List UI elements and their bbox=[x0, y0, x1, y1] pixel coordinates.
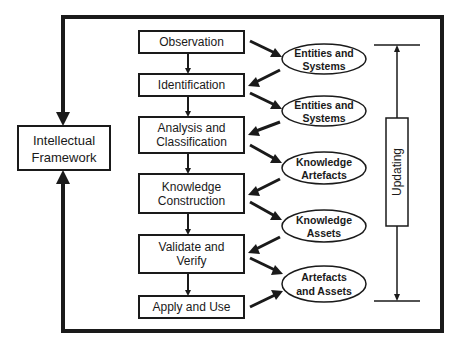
step-label-line1: Analysis and bbox=[157, 121, 225, 135]
step-apply-use: Apply and Use bbox=[139, 296, 244, 318]
step-label: Identification bbox=[158, 78, 225, 92]
step-label-line2: Verify bbox=[176, 254, 206, 268]
step-observation: Observation bbox=[139, 31, 244, 53]
step-label: Observation bbox=[159, 35, 224, 49]
step-label-line2: Construction bbox=[158, 194, 225, 208]
diagonal-arrows bbox=[248, 41, 283, 307]
output-label-line1: Entities and bbox=[294, 99, 354, 111]
step-label-line1: Knowledge bbox=[162, 180, 222, 194]
step-label: Apply and Use bbox=[152, 300, 230, 314]
output-knowledge-artefacts: Knowledge Artefacts bbox=[282, 152, 366, 184]
output-label-line2: Systems bbox=[302, 60, 345, 72]
feedback-loop-frame bbox=[56, 17, 442, 331]
arrow-down-into-framework-icon bbox=[56, 112, 70, 126]
arrow-up-into-framework-icon bbox=[56, 170, 70, 184]
step-validate-verify: Validate and Verify bbox=[139, 235, 244, 273]
intellectual-framework-box: Intellectual Framework bbox=[18, 126, 110, 170]
output-label-line2: Systems bbox=[302, 112, 345, 124]
step-label-line2: Classification bbox=[156, 135, 227, 149]
process-steps: Observation Identification Analysis and … bbox=[139, 31, 244, 318]
output-label-line1: Entities and bbox=[294, 47, 354, 59]
arrow-up-icon bbox=[394, 45, 400, 52]
step-identification: Identification bbox=[139, 74, 244, 96]
updating-label: Updating bbox=[390, 148, 404, 196]
output-label-line2: and Assets bbox=[296, 285, 352, 297]
output-label-line1: Artefacts bbox=[301, 271, 347, 283]
output-entities-systems-1: Entities and Systems bbox=[282, 44, 366, 74]
framework-label-line2: Framework bbox=[31, 150, 97, 165]
step-analysis-classification: Analysis and Classification bbox=[139, 117, 244, 153]
output-artefacts-assets: Artefacts and Assets bbox=[282, 266, 366, 302]
output-entities-systems-2: Entities and Systems bbox=[282, 96, 366, 126]
output-label-line1: Knowledge bbox=[296, 214, 352, 226]
output-knowledge-assets: Knowledge Assets bbox=[282, 210, 366, 242]
output-label-line2: Artefacts bbox=[301, 169, 347, 181]
step-knowledge-construction: Knowledge Construction bbox=[139, 174, 244, 213]
framework-label-line1: Intellectual bbox=[33, 133, 95, 148]
arrow-down-icon bbox=[394, 294, 400, 301]
output-label-line1: Knowledge bbox=[296, 156, 352, 168]
knowledge-process-diagram: Intellectual Framework Observation Ident… bbox=[0, 0, 456, 342]
output-label-line2: Assets bbox=[307, 227, 342, 239]
updating-indicator: Updating bbox=[374, 45, 420, 301]
step-label-line1: Validate and bbox=[159, 240, 225, 254]
outputs: Entities and Systems Entities and System… bbox=[282, 44, 366, 302]
